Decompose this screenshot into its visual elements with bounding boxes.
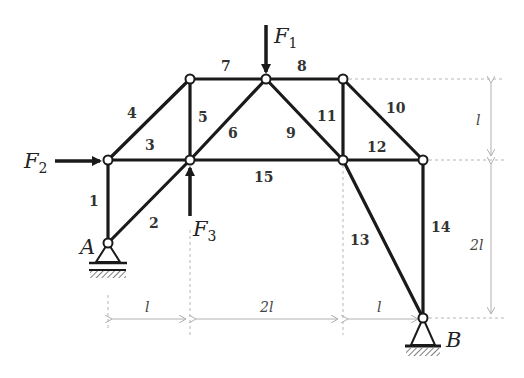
member-label-1: 1: [89, 193, 99, 209]
member-label-11: 11: [317, 108, 336, 124]
member-label-8: 8: [297, 58, 307, 74]
support-a-label: A: [78, 235, 95, 259]
member-label-2: 2: [149, 215, 159, 231]
member-label-10: 10: [386, 100, 406, 116]
member-label-9: 9: [286, 125, 296, 141]
force-f2-label: F2: [23, 149, 48, 176]
dim-label-h3: l: [377, 299, 381, 315]
support-b-label: B: [445, 328, 461, 352]
dim-label-v2: 2l: [469, 237, 483, 253]
member-label-13: 13: [350, 232, 369, 248]
force-f1-label: F1: [273, 24, 298, 51]
truss-diagram: F1 F2 F3 A B 1 2 3 4 5 6 7 8 9 10 11 12 …: [0, 0, 524, 378]
force-f3-label: F3: [192, 217, 217, 244]
member-label-5: 5: [198, 109, 208, 125]
member-label-15: 15: [254, 169, 273, 185]
dim-label-h2: 2l: [259, 299, 273, 315]
member-label-6: 6: [228, 125, 238, 141]
dim-label-h1: l: [145, 299, 149, 315]
dim-label-v1: l: [476, 112, 480, 128]
member-label-3: 3: [145, 137, 155, 153]
member-labels: 1 2 3 4 5 6 7 8 9 10 11 12 13 14 15: [89, 58, 451, 248]
truss-members: [108, 79, 423, 318]
member-label-14: 14: [431, 219, 451, 235]
member-label-4: 4: [127, 105, 137, 121]
support-b: [405, 318, 441, 356]
member-label-7: 7: [221, 58, 231, 74]
reference-lines: [108, 79, 505, 335]
member-label-12: 12: [367, 139, 386, 155]
